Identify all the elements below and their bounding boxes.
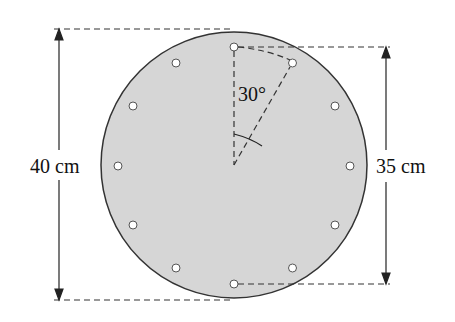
inner-diameter-label: 35 cm: [376, 155, 426, 177]
outer-diameter-label: 40 cm: [30, 155, 80, 177]
angle-label: 30°: [238, 83, 266, 105]
clock-diagram: 40 cm 35 cm 30°: [0, 0, 455, 322]
